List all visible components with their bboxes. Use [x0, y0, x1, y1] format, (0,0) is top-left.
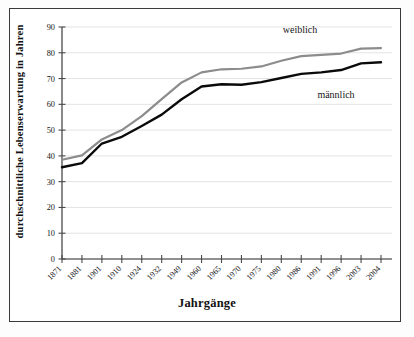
series-annotation: weiblich	[283, 24, 317, 35]
x-tick-label: 1975	[245, 264, 263, 282]
series-annotations: weiblichmännlich	[283, 24, 355, 100]
gridlines	[62, 27, 392, 233]
chart-figure: durchschnittliche Lebenserwartung in Jah…	[0, 0, 414, 337]
x-tick-label: 2003	[345, 264, 363, 282]
x-tick-label: 1996	[325, 264, 343, 282]
x-tick-label: 1901	[85, 264, 103, 282]
x-tick-label: 1949	[165, 264, 183, 282]
x-tick-label: 1924	[125, 264, 143, 282]
y-tick-labels: 0102030405060708090	[47, 23, 55, 264]
y-tick-label: 30	[47, 178, 55, 187]
x-tick-label: 1980	[265, 264, 283, 282]
y-tick-label: 90	[47, 23, 55, 32]
y-tick-label: 20	[47, 203, 55, 212]
plot-area: 0102030405060708090 18711881190119101924…	[0, 0, 414, 337]
x-tick-label: 1871	[45, 264, 63, 282]
x-tick-label: 2004	[364, 264, 382, 282]
x-tick-label: 1991	[305, 264, 323, 282]
series-annotation: männlich	[317, 89, 354, 100]
y-tick-label: 70	[47, 75, 55, 84]
x-tick-label: 1960	[185, 264, 203, 282]
y-tick-label: 40	[47, 152, 55, 161]
y-tick-label: 10	[47, 229, 55, 238]
x-tick-label: 1965	[205, 264, 223, 282]
x-tick-label: 1986	[285, 264, 303, 282]
x-tick-labels: 1871188119011910192419321949196019651970…	[45, 264, 382, 282]
series-lines	[62, 48, 381, 167]
y-tick-label: 60	[47, 100, 55, 109]
y-tick-label: 0	[51, 255, 55, 264]
x-tick-label: 1970	[225, 264, 243, 282]
series-line-männlich	[62, 62, 381, 167]
x-tick-label: 1910	[105, 264, 123, 282]
x-tick-label: 1881	[65, 264, 83, 282]
x-tick-label: 1932	[145, 264, 163, 282]
y-tick-label: 50	[47, 126, 55, 135]
y-tick-label: 80	[47, 49, 55, 58]
